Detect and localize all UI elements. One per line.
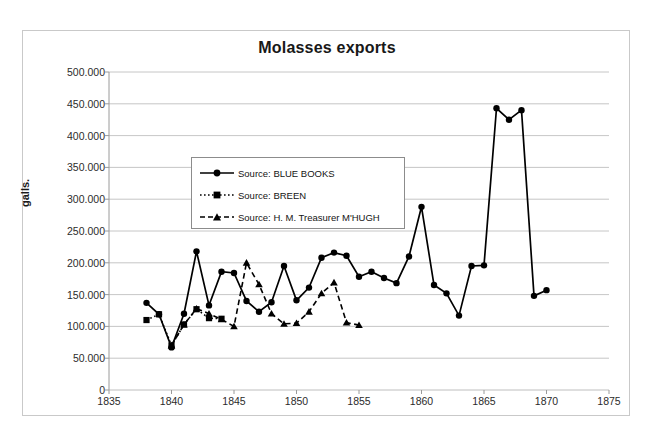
data-point xyxy=(406,253,412,259)
data-point xyxy=(318,255,324,261)
data-point xyxy=(418,204,424,210)
series-3 xyxy=(168,259,363,348)
data-point xyxy=(331,249,337,255)
data-point xyxy=(330,279,338,286)
x-tick-label: 1840 xyxy=(147,395,197,407)
y-tick-label: 450.000 xyxy=(41,98,105,110)
legend-item-breen[interactable]: Source: BREEN xyxy=(198,186,306,204)
chart-page: Molasses exports galls. 050.000100.00015… xyxy=(0,0,651,433)
data-point xyxy=(368,269,374,275)
data-point xyxy=(493,105,499,111)
chart-frame: Molasses exports galls. 050.000100.00015… xyxy=(22,30,630,416)
y-tick-label: 150.000 xyxy=(41,289,105,301)
x-tick-label: 1870 xyxy=(522,395,572,407)
y-axis-label: galls. xyxy=(19,179,31,207)
data-point xyxy=(243,298,249,304)
data-point xyxy=(393,280,399,286)
data-point xyxy=(543,287,549,293)
data-point xyxy=(143,317,149,323)
chart-title: Molasses exports xyxy=(23,39,631,57)
y-axis-tick-labels: 050.000100.000150.000200.000250.000300.0… xyxy=(37,72,105,390)
data-point xyxy=(218,269,224,275)
data-point xyxy=(293,297,299,303)
x-tick-label: 1865 xyxy=(459,395,509,407)
chart-legend: Source: BLUE BOOKS Source: BREEN xyxy=(191,157,405,229)
data-point xyxy=(518,107,524,113)
data-point xyxy=(255,281,263,288)
data-point xyxy=(356,274,362,280)
y-tick-label: 250.000 xyxy=(41,225,105,237)
x-tick-label: 1875 xyxy=(584,395,634,407)
y-tick-label: 50.000 xyxy=(41,352,105,364)
legend-label: Source: H. M. Treasurer M'HUGH xyxy=(238,212,380,223)
data-point xyxy=(506,117,512,123)
x-tick-label: 1835 xyxy=(84,395,134,407)
legend-label: Source: BREEN xyxy=(238,190,306,201)
y-tick-label: 500.000 xyxy=(41,66,105,78)
data-point xyxy=(231,270,237,276)
y-tick-label: 200.000 xyxy=(41,257,105,269)
data-point xyxy=(443,290,449,296)
x-axis-tick-labels: 183518401845185018551860186518701875 xyxy=(109,395,609,415)
legend-item-mhugh[interactable]: Source: H. M. Treasurer M'HUGH xyxy=(198,208,380,226)
legend-swatch-square-dotted xyxy=(198,187,236,203)
x-tick-label: 1855 xyxy=(334,395,384,407)
series-line xyxy=(172,263,360,346)
data-point xyxy=(468,263,474,269)
data-point xyxy=(268,310,276,317)
data-point xyxy=(343,319,351,326)
data-point xyxy=(293,320,301,327)
data-point xyxy=(268,299,274,305)
y-tick-label: 300.000 xyxy=(41,193,105,205)
x-tick-label: 1845 xyxy=(209,395,259,407)
data-point xyxy=(381,275,387,281)
data-point xyxy=(531,293,537,299)
data-point xyxy=(256,309,262,315)
y-tick-label: 400.000 xyxy=(41,130,105,142)
legend-label: Source: BLUE BOOKS xyxy=(238,168,335,179)
data-point xyxy=(156,311,162,317)
y-tick-label: 100.000 xyxy=(41,320,105,332)
data-point xyxy=(281,263,287,269)
data-point xyxy=(181,310,187,316)
data-point xyxy=(456,312,462,318)
legend-item-blue-books[interactable]: Source: BLUE BOOKS xyxy=(198,164,335,182)
plot-area xyxy=(109,72,609,390)
data-point xyxy=(206,302,212,308)
data-point xyxy=(306,284,312,290)
legend-swatch-triangle-dashed xyxy=(198,209,236,225)
plot-svg xyxy=(109,72,609,390)
data-point xyxy=(143,300,149,306)
y-tick-label: 350.000 xyxy=(41,161,105,173)
data-point xyxy=(431,282,437,288)
data-point xyxy=(343,253,349,259)
x-tick-label: 1850 xyxy=(272,395,322,407)
data-point xyxy=(481,262,487,268)
x-tick-label: 1860 xyxy=(397,395,447,407)
data-point xyxy=(193,248,199,254)
legend-swatch-circle-solid xyxy=(198,165,236,181)
